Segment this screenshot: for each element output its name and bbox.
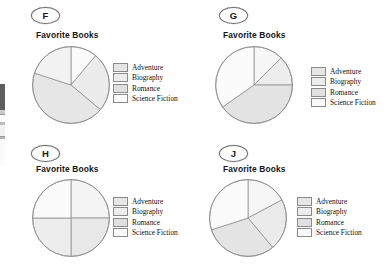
legend-swatch-romance xyxy=(113,84,128,93)
legend-label-science-fiction: Science Fiction xyxy=(132,95,178,102)
pie-slice-science-fiction xyxy=(33,180,71,218)
legend-h: Adventure Biography Romance Science Fict… xyxy=(113,196,178,238)
legend-label-science-fiction: Science Fiction xyxy=(330,99,376,106)
answer-option-j[interactable]: J Favorite Books Adventure Biography Rom… xyxy=(195,138,389,276)
legend-swatch-adventure xyxy=(311,67,326,76)
pie-chart-f xyxy=(31,45,111,125)
answer-option-f[interactable]: F Favorite Books Adventure Biography Rom… xyxy=(0,0,194,138)
answer-option-g[interactable]: G Favorite Books Adventure Biography Rom… xyxy=(195,0,389,138)
chart-title-j: Favorite Books xyxy=(223,164,286,174)
legend-item: Romance xyxy=(113,83,178,94)
chart-title-h: Favorite Books xyxy=(36,164,99,174)
legend-label-biography: Biography xyxy=(330,78,361,85)
legend-item: Adventure xyxy=(113,62,178,73)
legend-label-biography: Biography xyxy=(132,208,163,215)
legend-label-adventure: Adventure xyxy=(330,68,361,75)
legend-swatch-science-fiction xyxy=(297,228,312,237)
legend-item: Biography xyxy=(113,207,178,218)
legend-swatch-science-fiction xyxy=(113,228,128,237)
legend-swatch-biography xyxy=(311,77,326,86)
chart-title-g: Favorite Books xyxy=(223,30,286,40)
pie-slice-romance xyxy=(33,218,71,256)
legend-item: Biography xyxy=(297,207,362,218)
legend-item: Biography xyxy=(311,77,376,88)
legend-item: Science Fiction xyxy=(113,94,178,105)
legend-swatch-science-fiction xyxy=(113,94,128,103)
legend-item: Biography xyxy=(113,73,178,84)
legend-label-science-fiction: Science Fiction xyxy=(132,229,178,236)
legend-item: Adventure xyxy=(311,66,376,77)
option-badge-j[interactable]: J xyxy=(219,145,248,162)
pie-chart-g xyxy=(214,45,294,125)
pie-svg-j xyxy=(208,178,288,258)
legend-label-adventure: Adventure xyxy=(316,198,347,205)
legend-item: Science Fiction xyxy=(113,228,178,239)
legend-swatch-romance xyxy=(113,218,128,227)
legend-item: Romance xyxy=(113,217,178,228)
legend-item: Science Fiction xyxy=(311,98,376,109)
pie-chart-j xyxy=(208,178,288,258)
legend-swatch-biography xyxy=(113,207,128,216)
pie-svg-h xyxy=(31,178,111,258)
pie-slice-biography xyxy=(71,218,109,256)
option-badge-g[interactable]: G xyxy=(219,7,248,24)
pie-chart-h xyxy=(31,178,111,258)
legend-item: Romance xyxy=(311,87,376,98)
legend-item: Adventure xyxy=(297,196,362,207)
legend-swatch-biography xyxy=(297,207,312,216)
legend-swatch-romance xyxy=(297,218,312,227)
legend-g: Adventure Biography Romance Science Fict… xyxy=(311,66,376,108)
legend-label-science-fiction: Science Fiction xyxy=(316,229,362,236)
legend-item: Adventure xyxy=(113,196,178,207)
legend-swatch-romance xyxy=(311,88,326,97)
legend-item: Romance xyxy=(297,217,362,228)
legend-label-biography: Biography xyxy=(132,74,163,81)
option-badge-h[interactable]: H xyxy=(31,145,60,162)
pie-svg-g xyxy=(214,45,294,125)
legend-label-biography: Biography xyxy=(316,208,347,215)
legend-label-adventure: Adventure xyxy=(132,198,163,205)
chart-title-f: Favorite Books xyxy=(36,30,99,40)
legend-f: Adventure Biography Romance Science Fict… xyxy=(113,62,178,104)
legend-label-romance: Romance xyxy=(132,219,160,226)
legend-swatch-adventure xyxy=(113,63,128,72)
pie-svg-f xyxy=(31,45,111,125)
legend-swatch-science-fiction xyxy=(311,98,326,107)
legend-label-romance: Romance xyxy=(132,85,160,92)
legend-label-romance: Romance xyxy=(330,89,358,96)
option-badge-f[interactable]: F xyxy=(31,7,60,24)
answer-option-h[interactable]: H Favorite Books Adventure Biography Rom… xyxy=(0,138,194,276)
pie-slice-adventure xyxy=(71,180,109,218)
legend-swatch-adventure xyxy=(113,197,128,206)
legend-j: Adventure Biography Romance Science Fict… xyxy=(297,196,362,238)
legend-item: Science Fiction xyxy=(297,228,362,239)
legend-label-adventure: Adventure xyxy=(132,64,163,71)
legend-label-romance: Romance xyxy=(316,219,344,226)
legend-swatch-biography xyxy=(113,73,128,82)
legend-swatch-adventure xyxy=(297,197,312,206)
